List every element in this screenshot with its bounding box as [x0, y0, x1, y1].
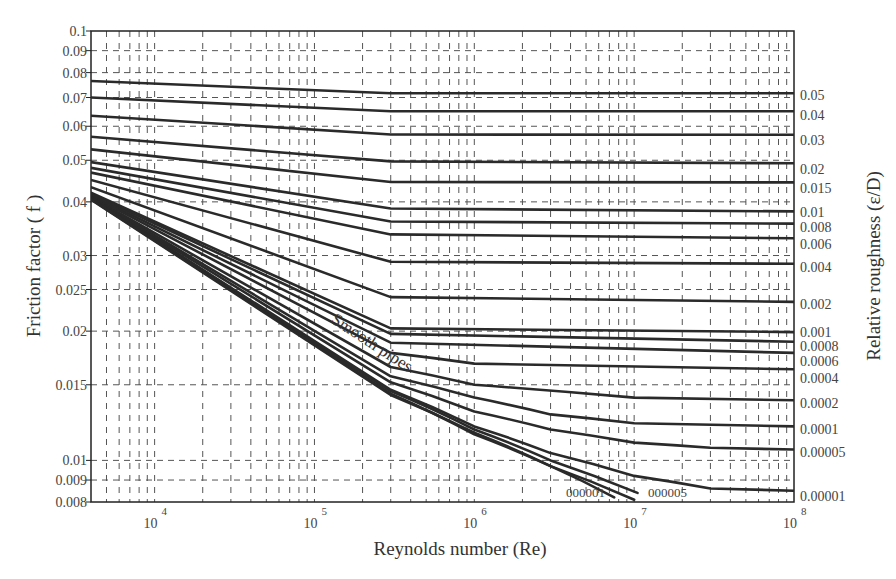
roughness-label: 0.0004	[800, 371, 839, 386]
x-axis-title: Reynolds number (Re)	[373, 538, 546, 560]
x-tick-label: 10	[303, 516, 317, 531]
roughness-label: 0.00001	[800, 489, 846, 504]
y-tick-label: 0.03	[63, 249, 88, 264]
curve-0.04	[91, 98, 794, 112]
y-tick-label: 0.06	[63, 119, 88, 134]
y-tick-label: 0.009	[56, 473, 88, 488]
x-axis-ticks: 104105106107108	[144, 505, 807, 531]
roughness-label: 0.002	[800, 297, 832, 312]
x-tick-exponent: 8	[801, 505, 807, 517]
x-tick-exponent: 4	[162, 505, 168, 517]
curve-0.008	[91, 168, 794, 224]
y-tick-label: 0.08	[63, 66, 88, 81]
y-tick-label: 0.1	[70, 24, 88, 39]
x-tick-exponent: 6	[481, 505, 487, 517]
y-tick-label: 0.025	[56, 283, 88, 298]
annotation-label: 000005	[648, 485, 687, 500]
roughness-label: 0.004	[800, 260, 832, 275]
y2-axis-title: Relative roughness (ε/D)	[863, 171, 885, 361]
x-tick-exponent: 7	[641, 505, 647, 517]
roughness-label: 0.02	[800, 162, 825, 177]
roughness-labels: 0.050.040.030.020.0150.010.0080.0060.004…	[800, 88, 846, 504]
y-tick-label: 0.008	[56, 495, 88, 510]
y-tick-label: 0.05	[63, 153, 88, 168]
curve-0.03	[91, 116, 794, 135]
roughness-label: 0.008	[800, 220, 832, 235]
curve-0.002	[91, 187, 794, 302]
y-tick-label: 0.07	[63, 91, 88, 106]
roughness-label: 0.04	[800, 108, 825, 123]
roughness-label: 0.00005	[800, 445, 846, 460]
roughness-label: 0.03	[800, 133, 825, 148]
y-tick-label: 0.015	[56, 378, 88, 393]
roughness-label: 0.0008	[800, 339, 839, 354]
curve-0.02	[91, 137, 794, 164]
x-tick-label: 10	[623, 516, 637, 531]
y-tick-label: 0.01	[63, 453, 88, 468]
annotation-label: 000001	[566, 485, 605, 500]
x-tick-label: 10	[463, 516, 477, 531]
x-tick-label: 10	[144, 516, 158, 531]
y-tick-label: 0.09	[63, 44, 88, 59]
roughness-label: 0.006	[800, 237, 832, 252]
roughness-label: 0.001	[800, 325, 832, 340]
roughness-label: 0.05	[800, 88, 825, 103]
roughness-label: 0.0001	[800, 422, 839, 437]
y-axis-title: Friction factor ( f )	[23, 195, 45, 337]
roughness-label: 0.0002	[800, 396, 839, 411]
curve-0.0001	[91, 197, 794, 426]
y-tick-label: 0.02	[63, 324, 88, 339]
y-tick-label: 0.04	[63, 195, 88, 210]
x-tick-label: 10	[783, 516, 797, 531]
roughness-curves	[91, 81, 794, 500]
moody-chart: 0.10.090.080.070.060.050.040.030.0250.02…	[0, 0, 896, 579]
x-tick-exponent: 5	[321, 505, 327, 517]
y-axis-ticks: 0.10.090.080.070.060.050.040.030.0250.02…	[56, 24, 92, 510]
roughness-label: 0.0006	[800, 354, 839, 369]
roughness-label: 0.01	[800, 205, 825, 220]
roughness-label: 0.015	[800, 181, 832, 196]
curve-0.05	[91, 81, 794, 93]
